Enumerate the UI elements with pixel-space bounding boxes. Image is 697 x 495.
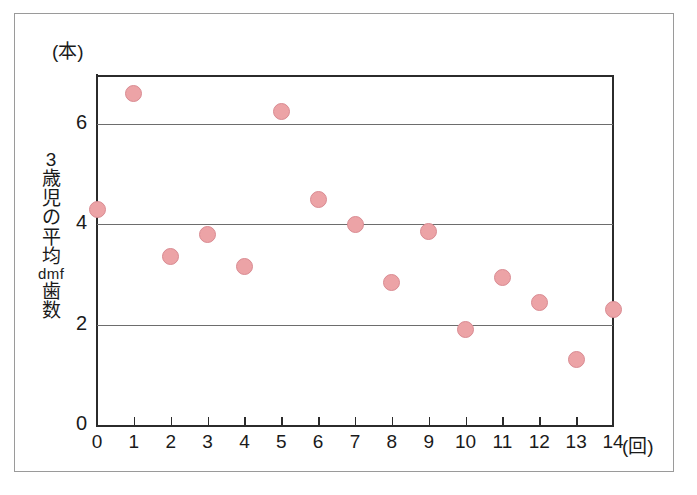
- data-point: [199, 226, 216, 243]
- x-axis-tick-mark: [613, 417, 614, 425]
- x-axis-tick-mark: [97, 417, 98, 425]
- data-point: [89, 201, 106, 218]
- x-axis-tick-label: 8: [377, 431, 407, 453]
- x-axis-tick-mark: [539, 417, 540, 425]
- data-point: [383, 274, 400, 291]
- y-axis-title-char: dmf: [38, 266, 64, 281]
- plot-border-top: [97, 75, 614, 77]
- x-axis-tick-mark: [281, 417, 282, 425]
- x-axis-tick-mark: [208, 417, 209, 425]
- x-axis-tick-label: 5: [266, 431, 296, 453]
- y-axis-tick-label: 2: [53, 312, 87, 335]
- scatter-chart-figure: (本) 3歳児の平均dmf歯数 0246 0123456789101112131…: [0, 0, 697, 495]
- data-point: [347, 216, 364, 233]
- x-axis-tick-label: 10: [451, 431, 481, 453]
- x-axis-tick-label: 6: [303, 431, 333, 453]
- y-axis-line: [96, 74, 98, 427]
- y-axis-unit-label: (本): [52, 36, 84, 63]
- y-axis-title-char: 歯: [38, 282, 64, 301]
- gridline-y: [97, 124, 613, 125]
- gridline-y: [97, 325, 613, 326]
- y-axis-title: 3歳児の平均dmf歯数: [38, 150, 64, 320]
- x-axis-tick-label: 3: [193, 431, 223, 453]
- y-axis-title-char: 歳: [38, 169, 64, 188]
- y-axis-title-char: 児: [38, 189, 64, 208]
- x-axis-tick-mark: [134, 417, 135, 425]
- x-axis-tick-mark: [318, 417, 319, 425]
- x-axis-unit-label: (回): [622, 431, 654, 458]
- x-axis-tick-label: 12: [524, 431, 554, 453]
- x-axis-tick-label: 7: [340, 431, 370, 453]
- data-point: [605, 301, 622, 318]
- plot-border-right: [612, 75, 614, 426]
- x-axis-tick-mark: [429, 417, 430, 425]
- y-axis-tick-label: 6: [53, 111, 87, 134]
- x-axis-tick-mark: [355, 417, 356, 425]
- x-axis-tick-mark: [466, 417, 467, 425]
- x-axis-tick-mark: [171, 417, 172, 425]
- x-axis-tick-label: 2: [156, 431, 186, 453]
- x-axis-tick-label: 4: [229, 431, 259, 453]
- y-axis-tick-label: 4: [53, 211, 87, 234]
- x-axis-tick-label: 11: [487, 431, 517, 453]
- x-axis-tick-label: 13: [561, 431, 591, 453]
- data-point: [531, 294, 548, 311]
- x-axis-tick-mark: [244, 417, 245, 425]
- y-axis-title-char: 均: [38, 247, 64, 266]
- x-axis-tick-label: 0: [82, 431, 112, 453]
- data-point: [310, 191, 327, 208]
- y-axis-title-char: 3: [38, 150, 64, 169]
- x-axis-tick-mark: [392, 417, 393, 425]
- data-point: [273, 103, 290, 120]
- x-axis-tick-mark: [502, 417, 503, 425]
- data-point: [568, 351, 585, 368]
- data-point: [494, 269, 511, 286]
- x-axis-tick-mark: [576, 417, 577, 425]
- x-axis-tick-label: 1: [119, 431, 149, 453]
- x-axis-tick-label: 9: [414, 431, 444, 453]
- x-axis-line: [96, 425, 614, 427]
